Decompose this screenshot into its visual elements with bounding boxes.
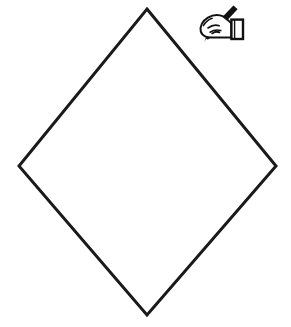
sleeve-cuff-icon <box>231 20 243 39</box>
hand-writing-pencil-glyph <box>201 6 243 42</box>
hand-writing-pencil-icon <box>195 4 245 48</box>
worksheet-page: Large empty diamond shape outlined in bl… <box>0 0 291 327</box>
hand-outline-icon <box>201 15 232 37</box>
diamond-shape[interactable] <box>19 9 276 315</box>
diamond-outline[interactable] <box>0 0 291 327</box>
